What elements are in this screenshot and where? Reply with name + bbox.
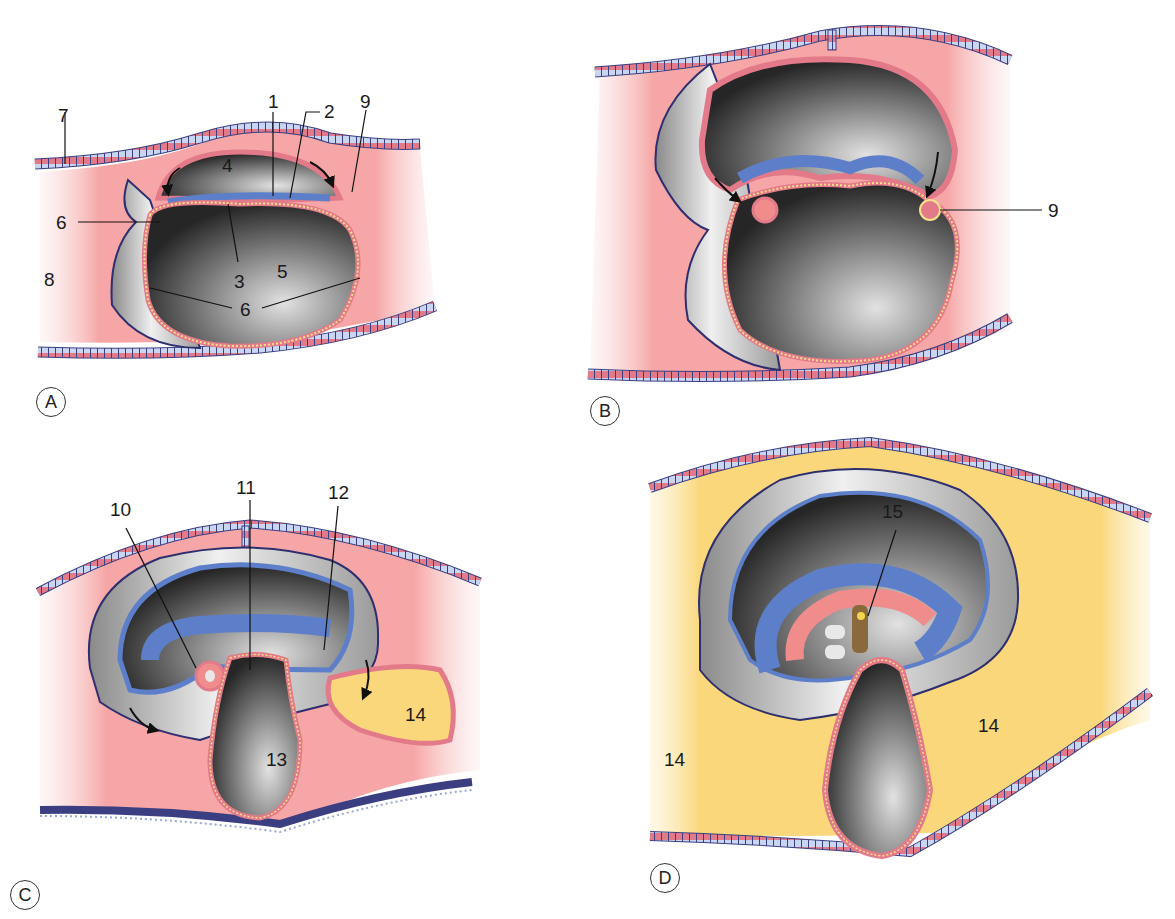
label-9: 9: [360, 92, 371, 111]
panel-letter-d: D: [650, 863, 680, 893]
panel-letter-b: B: [590, 396, 620, 426]
label-14-c: 14: [405, 705, 426, 724]
label-9-b: 9: [1048, 201, 1059, 220]
panel-a: 1 2 9 7 4 6 3 5 8 6 A: [0, 80, 450, 420]
panel-letter-text: B: [599, 401, 611, 422]
panel-letter-a: A: [36, 387, 66, 417]
panel-letter-text: C: [19, 885, 32, 906]
label-14-d-left: 14: [664, 750, 685, 769]
panel-letter-c: C: [10, 880, 40, 910]
panel-letter-text: A: [45, 392, 57, 413]
label-6-lower: 6: [240, 300, 251, 319]
label-5: 5: [277, 262, 288, 281]
label-6-upper: 6: [56, 213, 67, 232]
panel-b: 9 B: [560, 0, 1175, 420]
panel-c: 10 11 12 13 14 C: [0, 440, 500, 880]
panel-b-illustration: [560, 0, 1175, 420]
label-10: 10: [110, 500, 131, 519]
panel-d-illustration: [620, 420, 1175, 919]
label-8: 8: [44, 270, 55, 289]
label-1: 1: [268, 92, 279, 111]
panel-letter-text: D: [659, 868, 672, 889]
label-12: 12: [328, 483, 349, 502]
label-7: 7: [58, 106, 69, 125]
label-13: 13: [266, 750, 287, 769]
panel-c-illustration: [0, 440, 500, 880]
label-4: 4: [222, 156, 233, 175]
label-14-d-right: 14: [978, 716, 999, 735]
label-11: 11: [236, 478, 256, 497]
panel-a-illustration: [0, 80, 450, 420]
label-3: 3: [234, 272, 245, 291]
panel-d: 15 14 14 D: [620, 420, 1175, 919]
label-15: 15: [882, 502, 903, 521]
label-2: 2: [324, 102, 335, 121]
